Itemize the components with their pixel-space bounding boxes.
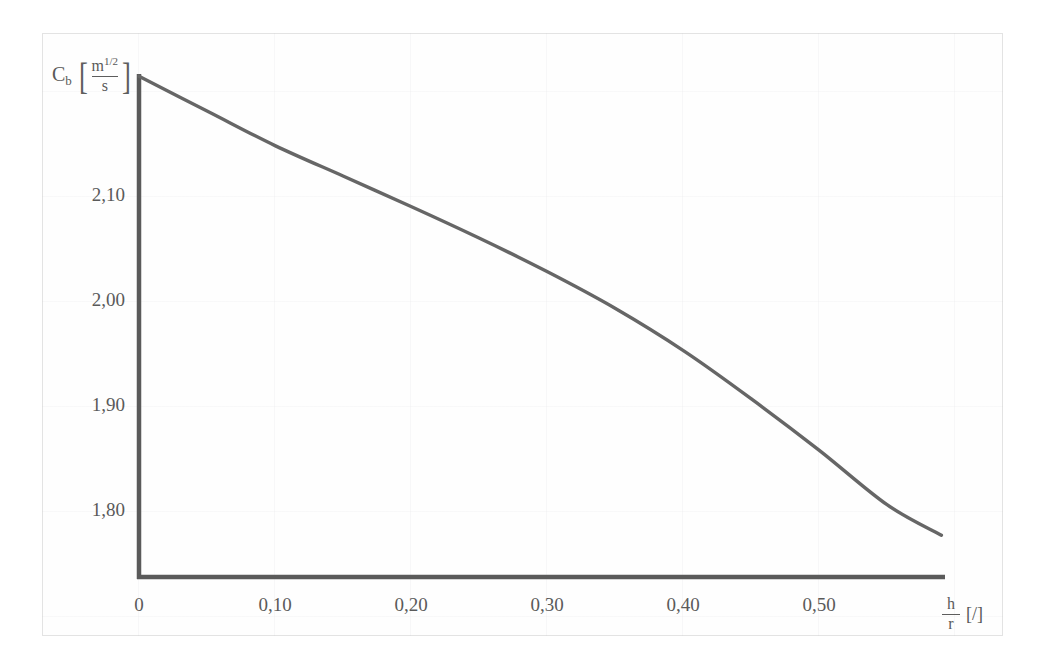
y-axis-title: Cb [ m1/2 s ] — [52, 58, 133, 95]
y-tick-label: 1,80 — [55, 499, 125, 521]
x-tick-label: 0,20 — [371, 594, 451, 616]
y-tick-label: 2,00 — [55, 289, 125, 311]
data-curve-cb — [139, 76, 941, 535]
x-tick-label: 0,50 — [779, 594, 859, 616]
chart-plot-area: Cb [ m1/2 s ] h r [/] 2,102,001,901,80 0… — [0, 0, 1044, 672]
y-tick-label: 2,10 — [55, 184, 125, 206]
x-title-unit: [/] — [966, 604, 983, 625]
y-unit-denominator: s — [102, 78, 108, 95]
x-tick-label: 0,10 — [235, 594, 315, 616]
x-axis-title: h r [/] — [940, 596, 983, 633]
x-title-fraction: h r — [940, 596, 962, 633]
y-unit-numerator: m1/2 — [92, 58, 119, 75]
y-tick-label: 1,90 — [55, 394, 125, 416]
y-axis-symbol: Cb — [52, 63, 72, 89]
x-title-numerator: h — [947, 596, 955, 613]
x-title-denominator: r — [948, 616, 953, 633]
x-tick-label: 0,30 — [507, 594, 587, 616]
chart-canvas — [0, 0, 1044, 672]
y-axis-unit: [ m1/2 s ] — [77, 58, 133, 95]
x-tick-label: 0 — [99, 594, 179, 616]
y-unit-fraction: m1/2 s — [90, 58, 121, 95]
x-tick-label: 0,40 — [643, 594, 723, 616]
